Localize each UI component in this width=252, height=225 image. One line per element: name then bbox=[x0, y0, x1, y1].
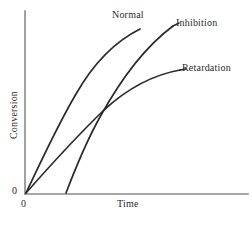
curve-label-inhibition: Inhibition bbox=[176, 18, 217, 28]
x-axis-origin-tick-label: 0 bbox=[21, 199, 26, 209]
curve-label-normal: Normal bbox=[112, 10, 144, 20]
y-axis-label: Conversion bbox=[9, 85, 19, 145]
curve-normal bbox=[26, 29, 140, 193]
x-axis-label: Time bbox=[117, 199, 139, 209]
curve-label-retardation: Retardation bbox=[182, 63, 231, 73]
chart-plot-area bbox=[0, 0, 252, 225]
y-axis-origin-tick-label: 0 bbox=[12, 186, 17, 196]
curve-inhibition bbox=[66, 26, 173, 193]
curve-retardation bbox=[26, 70, 180, 193]
kinetics-chart-figure: Normal Inhibition Retardation Time Conve… bbox=[0, 0, 252, 225]
